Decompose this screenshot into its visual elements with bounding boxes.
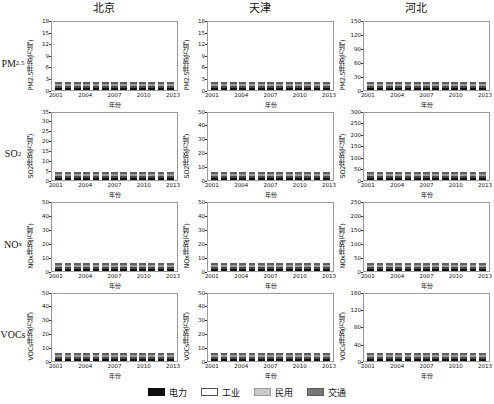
bar-slot[interactable] [110, 203, 119, 271]
bar-slot[interactable] [166, 203, 175, 271]
bar-slot[interactable] [285, 294, 294, 362]
stacked-bar[interactable] [120, 353, 127, 361]
bar-slot[interactable] [166, 22, 175, 90]
bar-slot[interactable] [459, 22, 468, 90]
stacked-bar[interactable] [239, 172, 246, 180]
stacked-bar[interactable] [83, 82, 90, 90]
stacked-bar[interactable] [111, 82, 118, 90]
bar-slot[interactable] [459, 294, 468, 362]
stacked-bar[interactable] [158, 353, 165, 361]
bar-slot[interactable] [312, 203, 321, 271]
bar-slot[interactable] [422, 203, 431, 271]
stacked-bar[interactable] [211, 172, 218, 180]
stacked-bar[interactable] [386, 172, 393, 180]
stacked-bar[interactable] [432, 82, 439, 90]
stacked-bar[interactable] [442, 82, 449, 90]
stacked-bar[interactable] [158, 82, 165, 90]
stacked-bar[interactable] [55, 263, 62, 271]
stacked-bar[interactable] [211, 263, 218, 271]
bar-slot[interactable] [322, 113, 331, 181]
stacked-bar[interactable] [460, 263, 467, 271]
bar-slot[interactable] [229, 294, 238, 362]
stacked-bar[interactable] [304, 82, 311, 90]
stacked-bar[interactable] [295, 263, 302, 271]
bar-slot[interactable] [63, 113, 72, 181]
bar-slot[interactable] [394, 113, 403, 181]
bar-slot[interactable] [73, 203, 82, 271]
stacked-bar[interactable] [102, 82, 109, 90]
stacked-bar[interactable] [74, 263, 81, 271]
stacked-bar[interactable] [314, 82, 321, 90]
stacked-bar[interactable] [286, 353, 293, 361]
stacked-bar[interactable] [102, 172, 109, 180]
bar-slot[interactable] [82, 203, 91, 271]
stacked-bar[interactable] [377, 263, 384, 271]
bar-slot[interactable] [219, 113, 228, 181]
bar-slot[interactable] [375, 22, 384, 90]
stacked-bar[interactable] [314, 353, 321, 361]
bar-slot[interactable] [101, 294, 110, 362]
bar-slot[interactable] [101, 22, 110, 90]
stacked-bar[interactable] [249, 172, 256, 180]
legend-item-power[interactable]: 电力 [148, 386, 187, 399]
legend-item-transport[interactable]: 交通 [307, 386, 346, 399]
stacked-bar[interactable] [479, 82, 486, 90]
bar-slot[interactable] [394, 203, 403, 271]
stacked-bar[interactable] [55, 353, 62, 361]
bar-slot[interactable] [257, 294, 266, 362]
stacked-bar[interactable] [423, 172, 430, 180]
stacked-bar[interactable] [286, 82, 293, 90]
bar-slot[interactable] [82, 113, 91, 181]
bar-slot[interactable] [303, 113, 312, 181]
bar-slot[interactable] [210, 203, 219, 271]
bar-slot[interactable] [257, 22, 266, 90]
bar-slot[interactable] [210, 113, 219, 181]
bar-slot[interactable] [303, 22, 312, 90]
bar-slot[interactable] [101, 203, 110, 271]
bar-slot[interactable] [441, 203, 450, 271]
stacked-bar[interactable] [295, 172, 302, 180]
stacked-bar[interactable] [258, 172, 265, 180]
stacked-bar[interactable] [130, 263, 137, 271]
bar-slot[interactable] [138, 113, 147, 181]
bar-slot[interactable] [147, 22, 156, 90]
stacked-bar[interactable] [267, 263, 274, 271]
bar-slot[interactable] [441, 113, 450, 181]
stacked-bar[interactable] [221, 353, 228, 361]
bar-slot[interactable] [394, 294, 403, 362]
stacked-bar[interactable] [267, 353, 274, 361]
stacked-bar[interactable] [55, 82, 62, 90]
bar-slot[interactable] [101, 113, 110, 181]
bar-slot[interactable] [303, 203, 312, 271]
stacked-bar[interactable] [239, 353, 246, 361]
bar-slot[interactable] [110, 22, 119, 90]
stacked-bar[interactable] [470, 82, 477, 90]
bar-slot[interactable] [366, 22, 375, 90]
bar-slot[interactable] [91, 203, 100, 271]
stacked-bar[interactable] [414, 353, 421, 361]
stacked-bar[interactable] [111, 263, 118, 271]
stacked-bar[interactable] [304, 353, 311, 361]
stacked-bar[interactable] [130, 353, 137, 361]
stacked-bar[interactable] [239, 263, 246, 271]
bar-slot[interactable] [63, 294, 72, 362]
bar-slot[interactable] [478, 203, 487, 271]
stacked-bar[interactable] [93, 82, 100, 90]
bar-slot[interactable] [478, 113, 487, 181]
bar-slot[interactable] [247, 203, 256, 271]
stacked-bar[interactable] [276, 172, 283, 180]
stacked-bar[interactable] [148, 172, 155, 180]
bar-slot[interactable] [147, 203, 156, 271]
stacked-bar[interactable] [130, 82, 137, 90]
bar-slot[interactable] [468, 22, 477, 90]
stacked-bar[interactable] [148, 263, 155, 271]
stacked-bar[interactable] [120, 82, 127, 90]
bar-slot[interactable] [156, 294, 165, 362]
bar-slot[interactable] [294, 203, 303, 271]
stacked-bar[interactable] [83, 353, 90, 361]
stacked-bar[interactable] [367, 172, 374, 180]
stacked-bar[interactable] [221, 172, 228, 180]
bar-slot[interactable] [266, 22, 275, 90]
bar-slot[interactable] [459, 203, 468, 271]
stacked-bar[interactable] [65, 263, 72, 271]
